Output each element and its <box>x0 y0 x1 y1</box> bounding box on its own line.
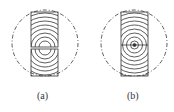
label-b: (b) <box>127 90 139 101</box>
figure-b <box>101 10 167 77</box>
pith-b <box>133 44 136 47</box>
outline-circle-b <box>101 10 167 76</box>
figure-a <box>11 10 79 79</box>
diagram-canvas <box>0 0 174 112</box>
grain-rings-a <box>11 13 79 79</box>
outline-circle-a <box>12 10 78 76</box>
label-a: (a) <box>37 90 48 101</box>
